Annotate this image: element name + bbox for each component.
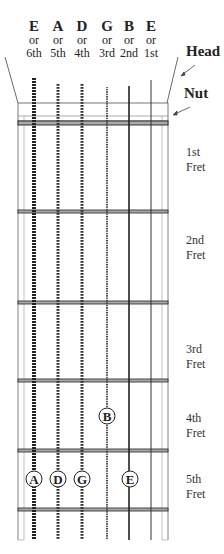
head-arrow-icon (181, 65, 195, 76)
note-B-circle: B (99, 408, 115, 424)
note-label: E (126, 472, 135, 487)
nut-area (18, 103, 168, 121)
note-E-circle: E (122, 471, 138, 487)
nut-arrow-icon (173, 107, 190, 115)
fret-1 (18, 210, 168, 213)
headstock-right-edge (167, 57, 178, 103)
fretboard-diagram: B A D G E (0, 0, 224, 554)
fret-3 (18, 379, 168, 382)
note-label: D (53, 472, 62, 487)
nut-bar (18, 121, 168, 125)
fret-5 (18, 508, 168, 511)
note-A-circle: A (26, 471, 42, 487)
fret-2 (18, 301, 168, 304)
strings (32, 77, 151, 540)
string-3rd (106, 87, 108, 540)
note-G-circle: G (74, 471, 90, 487)
note-D-circle: D (50, 471, 66, 487)
fret-4 (18, 449, 168, 452)
note-label: A (29, 472, 39, 487)
note-label: G (77, 472, 87, 487)
headstock-left-edge (5, 57, 18, 103)
fret-wires (18, 210, 168, 511)
note-label: B (103, 409, 112, 424)
